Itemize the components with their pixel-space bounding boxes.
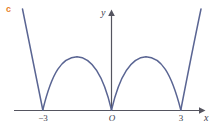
curve-right-branch <box>181 9 201 110</box>
curve-left-arch <box>43 57 112 110</box>
curve-right-arch <box>112 57 181 110</box>
graph-figure: c y x −3 O 3 <box>0 0 217 135</box>
origin-label: O <box>103 114 121 123</box>
y-axis-arrowhead <box>108 10 115 17</box>
curve-left-branch <box>23 9 43 110</box>
x-axis-label: x <box>204 113 208 123</box>
x-tick-label-pos3: 3 <box>174 114 188 123</box>
x-tick-label-neg3: −3 <box>33 114 53 123</box>
y-axis <box>108 10 115 112</box>
y-axis-label: y <box>101 8 105 18</box>
